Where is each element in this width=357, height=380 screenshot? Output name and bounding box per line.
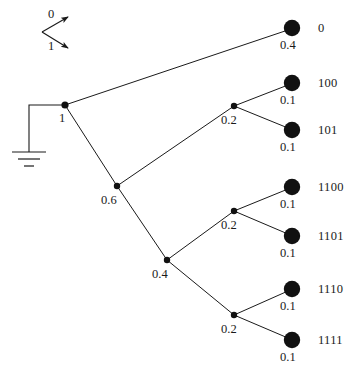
edge-02c-1111 [234,315,288,338]
ground-symbol [12,105,65,166]
edge-root-1 [65,105,117,186]
node-06 [114,183,120,189]
leaf-probability-1110: 0.1 [280,300,296,313]
node-root [61,101,68,108]
internal-nodes [61,101,237,318]
leaf-probability-101: 0.1 [280,141,296,154]
node-probability-02c: 0.2 [221,323,237,336]
codeword-101: 101 [318,124,338,137]
leaf-node-101 [284,122,300,138]
tree-graphic [0,0,357,380]
tree-edges [65,30,288,338]
codeword-1100: 1100 [318,181,344,194]
node-probability-04: 0.4 [152,268,168,281]
edge-04-02c [167,260,234,315]
edge-02a-101 [234,106,288,128]
legend-arrows [42,17,68,48]
leaf-node-1111 [284,332,300,348]
codeword-0: 0 [318,22,325,35]
leaf-node-100 [284,75,300,91]
legend-bit-zero-label: 0 [48,8,54,21]
edge-06-02a [117,106,234,186]
root-probability-label: 1 [59,112,65,125]
leaf-node-0 [284,20,300,36]
legend-bit-one-label: 1 [48,40,54,53]
codeword-1110: 1110 [318,283,343,296]
leaf-probability-100: 0.1 [280,94,296,107]
leaf-node-1101 [284,228,300,244]
codeword-100: 100 [318,77,338,90]
node-02b [231,208,237,214]
codeword-1101: 1101 [318,230,344,243]
node-02a [231,103,237,109]
node-probability-02b: 0.2 [221,219,237,232]
node-probability-02a: 0.2 [221,114,237,127]
edge-root-0 [65,30,288,105]
node-04 [164,257,170,263]
codeword-1111: 1111 [318,334,343,347]
edge-06-04 [117,186,167,260]
node-probability-06: 0.6 [101,194,117,207]
leaf-probability-1100: 0.1 [280,198,296,211]
leaf-probability-0: 0.4 [280,39,296,52]
bit-one-arrow-icon [42,32,68,48]
leaf-node-1110 [284,281,300,297]
code-tree-figure: 0 1 1 0.6 0.4 0.2 0.2 0.2 0.4 0.1 0.1 0.… [0,0,357,380]
node-02c [231,312,237,318]
leaf-node-1100 [284,179,300,195]
leaf-probability-1111: 0.1 [280,351,296,364]
edge-02b-1101 [234,211,288,234]
bit-zero-arrow-icon [42,17,68,32]
leaf-probability-1101: 0.1 [280,247,296,260]
